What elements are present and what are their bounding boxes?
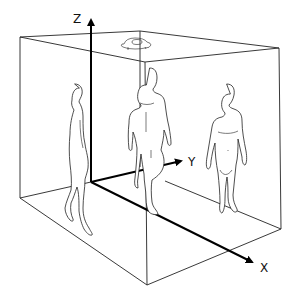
x-axis-label: X <box>260 261 268 275</box>
person-left <box>65 84 92 235</box>
y-axis-label: Y <box>187 155 196 169</box>
person-center <box>128 68 171 215</box>
z-axis-label: Z <box>73 12 81 26</box>
person-right <box>206 84 246 213</box>
room-coordinate-diagram: Z X Y <box>0 0 296 301</box>
ceiling-sensor-icon <box>121 38 151 50</box>
